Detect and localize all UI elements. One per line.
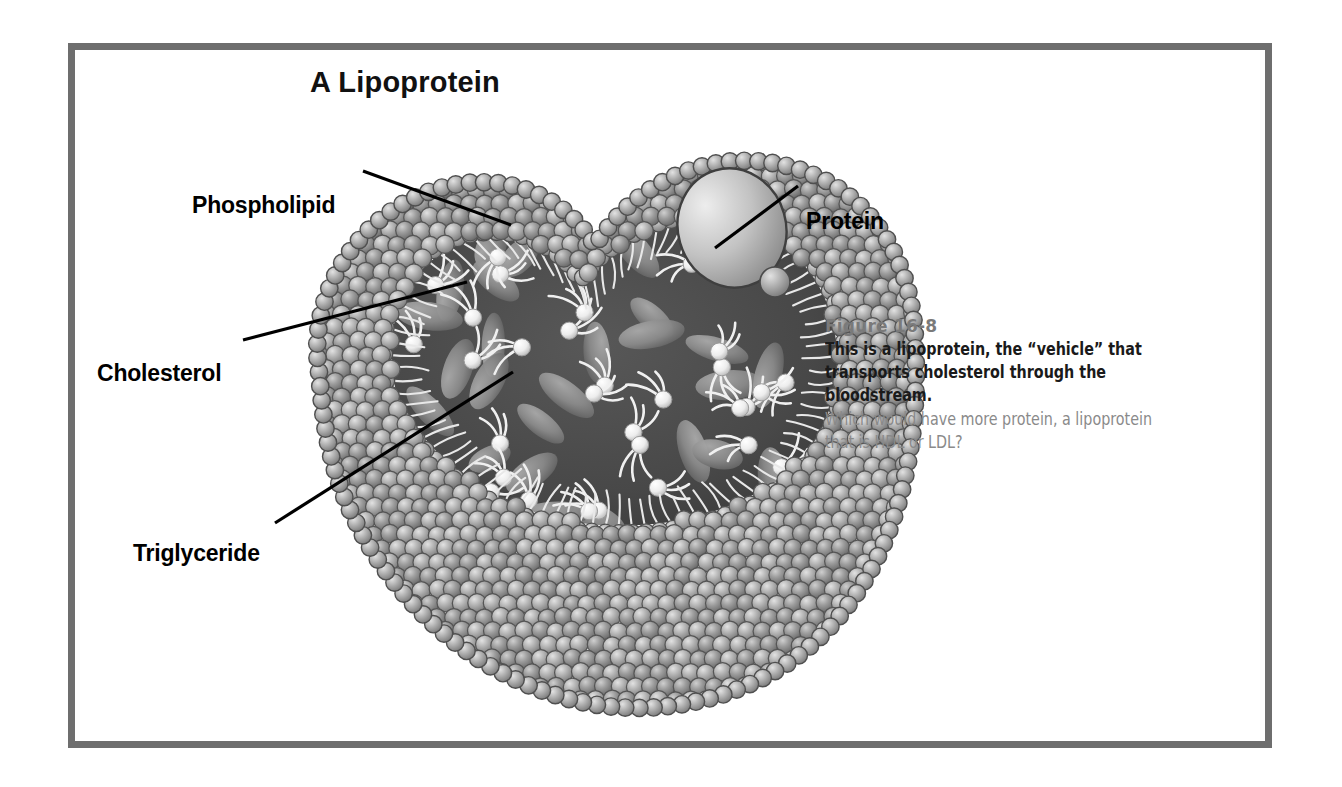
leader-phospholipid <box>363 171 511 225</box>
leader-triglyceride <box>275 372 513 523</box>
callout-label-cholesterol: Cholesterol <box>97 360 221 387</box>
callout-label-phospholipid: Phospholipid <box>192 192 335 219</box>
surface-protein-blobs <box>299 404 876 741</box>
leader-cholesterol <box>243 282 467 340</box>
figure-frame: A Lipoprotein <box>68 43 1272 748</box>
phospholipid-tail-fringe <box>392 223 837 526</box>
figure-title: A Lipoprotein <box>75 66 735 99</box>
protein-molecule <box>664 155 801 300</box>
leader-protein <box>715 186 798 248</box>
cholesterol-group <box>394 204 790 544</box>
caption-question: Which would have more protein, a lipopro… <box>825 408 1184 454</box>
caption-body: This is a lipoprotein, the “vehicle” tha… <box>825 338 1184 407</box>
leader-lines <box>243 171 798 523</box>
phospholipid-inner-leaflet <box>376 208 853 542</box>
callout-label-triglyceride: Triglyceride <box>133 540 260 567</box>
core-contents <box>387 204 813 544</box>
triglyceride-group <box>387 248 813 520</box>
lipoprotein-core <box>392 222 838 525</box>
callout-label-protein: Protein <box>806 208 884 235</box>
figure-caption: Figure 16-8 This is a lipoprotein, the “… <box>825 316 1185 454</box>
caption-figure-number: Figure 16-8 <box>825 316 1185 336</box>
